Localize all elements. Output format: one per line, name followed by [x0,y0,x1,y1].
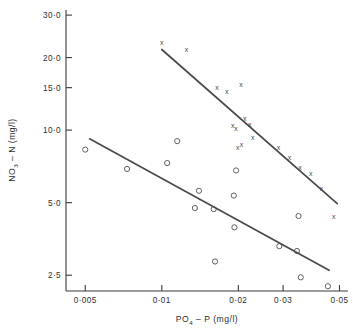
y-tick-label-1: 5·0 [48,199,61,208]
x-tick-label-4: 0·05 [331,296,349,305]
data-point-cross: x [225,88,229,95]
x-tick-label-1: 0·01 [153,296,171,305]
plot-canvas: xxxxxxxxxxxxxxxxxx 2·55·010·015·020·030·… [0,0,353,335]
fit-line-lower-series [90,139,330,270]
x-tick-label-0: 0·005 [74,296,97,305]
data-point-cross: x [251,134,255,141]
data-point-circle [296,213,301,218]
axis-titles-group: PO4 – P (mg/l) NO3 – N (mg/l) [7,118,238,325]
data-point-cross: x [243,115,247,122]
data-point-circle [325,284,330,289]
data-point-cross: x [240,141,244,148]
x-tick-label-3: 0·03 [274,296,292,305]
data-point-cross: x [185,46,189,53]
data-point-circle [124,166,129,171]
data-point-circle [277,244,282,249]
data-point-circle [192,205,197,210]
x-tick-label-2: 0·02 [229,296,247,305]
y-tick-label-4: 20·0 [43,54,61,63]
scatter-plot-figure: xxxxxxxxxxxxxxxxxx 2·55·010·015·020·030·… [0,0,353,335]
data-point-circle [83,147,88,152]
data-point-cross: x [320,185,324,192]
data-point-circle [233,168,238,173]
data-point-circle [196,188,201,193]
data-point-circle [212,259,217,264]
x-axis-title: PO4 – P (mg/l) [176,314,238,326]
y-tick-label-5: 30·0 [43,11,61,20]
y-tick-label-3: 15·0 [43,84,61,93]
data-point-circle [232,225,237,230]
data-point-circle [298,275,303,280]
x-axis-ticks: 0·0050·010·020·030·05 [74,285,349,305]
data-point-circle [165,160,170,165]
data-point-circle [175,139,180,144]
data-point-cross: x [239,81,243,88]
data-point-cross: x [215,84,219,91]
data-point-cross: x [234,125,238,132]
regression-lines-group [90,49,338,270]
data-point-cross: x [248,121,252,128]
y-tick-label-0: 2·5 [48,271,61,280]
data-point-cross: x [309,170,313,177]
data-point-cross: x [332,213,336,220]
y-axis-title: NO3 – N (mg/l) [7,118,19,181]
data-point-cross: x [298,164,302,171]
data-points-group: xxxxxxxxxxxxxxxxxx [83,39,336,288]
data-point-cross: x [160,39,164,46]
y-tick-label-2: 10·0 [43,126,61,135]
data-point-cross: x [277,144,281,151]
y-axis-ticks: 2·55·010·015·020·030·0 [43,11,72,280]
axes-group: 2·55·010·015·020·030·0 0·0050·010·020·03… [43,10,349,305]
data-point-cross: x [288,154,292,161]
data-point-circle [231,193,236,198]
